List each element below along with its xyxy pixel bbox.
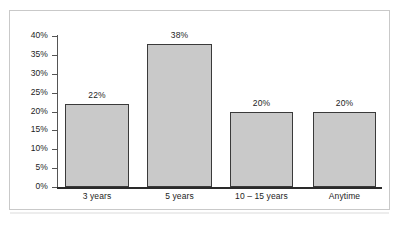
y-axis-tick xyxy=(52,74,57,75)
chart-screenshot: 40%35%30%25%20%15%10%5%0% 22%38%20%20% 3… xyxy=(0,0,400,227)
figure-frame: 40%35%30%25%20%15%10%5%0% 22%38%20%20% 3… xyxy=(9,10,390,210)
y-axis-tick xyxy=(52,93,57,94)
y-axis-tick xyxy=(52,112,57,113)
y-axis-tick-label: 15% xyxy=(14,125,48,134)
bar xyxy=(147,44,212,187)
x-axis-line xyxy=(57,187,382,189)
y-axis-line xyxy=(57,35,58,187)
y-axis-tick xyxy=(52,168,57,169)
bar xyxy=(65,104,129,187)
bar-value-label: 38% xyxy=(147,31,212,40)
y-axis-tick xyxy=(52,36,57,37)
y-axis-tick-label: 20% xyxy=(14,107,48,116)
y-axis-tick-label: 5% xyxy=(14,163,48,172)
y-axis-tick-label: 0% xyxy=(14,182,48,191)
bar xyxy=(230,112,293,188)
y-axis-tick xyxy=(52,55,57,56)
plot-area: 40%35%30%25%20%15%10%5%0% 22%38%20%20% 3… xyxy=(10,11,391,211)
y-axis-tick-label: 25% xyxy=(14,88,48,97)
bar xyxy=(313,112,376,188)
page-band xyxy=(10,212,389,214)
x-axis-category-label: 10 – 15 years xyxy=(214,191,309,201)
bar-value-label: 20% xyxy=(230,99,293,108)
y-axis-tick-label: 30% xyxy=(14,69,48,78)
y-axis-tick-label: 35% xyxy=(14,50,48,59)
y-axis-tick xyxy=(52,149,57,150)
bar-value-label: 20% xyxy=(313,99,376,108)
y-axis-tick xyxy=(52,130,57,131)
y-axis-tick-label: 40% xyxy=(14,31,48,40)
x-axis-category-label: Anytime xyxy=(297,191,392,201)
y-axis-tick xyxy=(52,187,57,188)
bar-value-label: 22% xyxy=(65,91,129,100)
y-axis-tick-label: 10% xyxy=(14,144,48,153)
